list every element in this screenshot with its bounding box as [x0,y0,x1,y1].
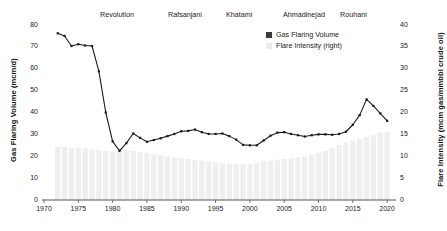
bar [172,157,177,200]
bar [316,153,321,200]
bar [309,155,314,201]
bar [268,161,273,200]
bar [103,151,108,200]
data-point [118,150,120,152]
data-point [386,120,388,122]
data-point [77,43,79,45]
bar [165,156,170,200]
data-point [194,128,196,130]
bar [336,145,341,200]
data-point [146,141,148,143]
data-point [173,133,175,135]
data-point [105,111,107,113]
data-point [290,133,292,135]
data-point [359,114,361,116]
data-point [338,133,340,135]
bar [76,148,81,201]
data-point [98,70,100,72]
data-point [352,124,354,126]
bar [220,163,225,200]
bar [117,150,122,200]
bar [83,148,88,200]
legend-label: Flare Intensity (right) [276,41,342,51]
data-point [112,140,114,142]
data-point [379,112,381,114]
bar [247,164,252,200]
bar [69,148,74,200]
bar [275,160,280,200]
bar [233,164,238,200]
data-point [84,44,86,46]
bar [282,159,287,200]
data-point [256,144,258,146]
data-point [228,135,230,137]
bar [179,158,184,200]
bar [323,151,328,200]
data-point [180,130,182,132]
bar [158,155,163,200]
bar [350,141,355,201]
data-point [91,45,93,47]
bar [110,152,115,200]
bar [384,132,389,200]
data-point [70,45,72,47]
data-point [283,131,285,133]
bar [199,161,204,200]
bar [131,151,136,200]
bar [254,163,259,200]
data-point [324,133,326,135]
bar [357,139,362,200]
bar [124,150,129,200]
data-point [372,105,374,107]
bar [330,148,335,200]
data-point [160,137,162,139]
bar [137,152,142,200]
data-point [139,137,141,139]
chart-legend: Gas Flaring VolumeFlare Intensity (right… [266,30,342,52]
data-point [63,35,65,37]
data-point [249,144,251,146]
data-point [263,139,265,141]
bar [192,160,197,200]
bar [62,147,67,200]
data-point [276,132,278,134]
bar [240,164,245,200]
bar [343,142,348,200]
legend-swatch-icon [266,32,272,38]
legend-swatch-icon [266,43,272,49]
data-point [242,144,244,146]
data-point [132,132,134,134]
data-point [331,134,333,136]
bar [295,157,300,200]
bar [378,133,383,200]
data-point [235,139,237,141]
bar [288,158,293,200]
bar [261,162,266,201]
data-point [201,131,203,133]
data-point [57,32,59,34]
bar [185,159,190,200]
data-point [345,131,347,133]
data-point [304,135,306,137]
data-point [153,139,155,141]
bar [151,155,156,201]
legend-item: Flare Intensity (right) [266,41,342,51]
legend-label: Gas Flaring Volume [276,30,339,40]
bar [302,156,307,200]
bar [213,162,218,200]
data-point [125,142,127,144]
data-point [365,98,367,100]
bar [96,150,101,200]
data-point [166,135,168,137]
bar [371,135,376,200]
bar [89,149,94,200]
bar [55,147,60,200]
data-point [311,134,313,136]
bar [227,164,232,200]
bar [144,153,149,200]
data-point [187,130,189,132]
legend-item: Gas Flaring Volume [266,30,342,40]
bar [364,137,369,200]
